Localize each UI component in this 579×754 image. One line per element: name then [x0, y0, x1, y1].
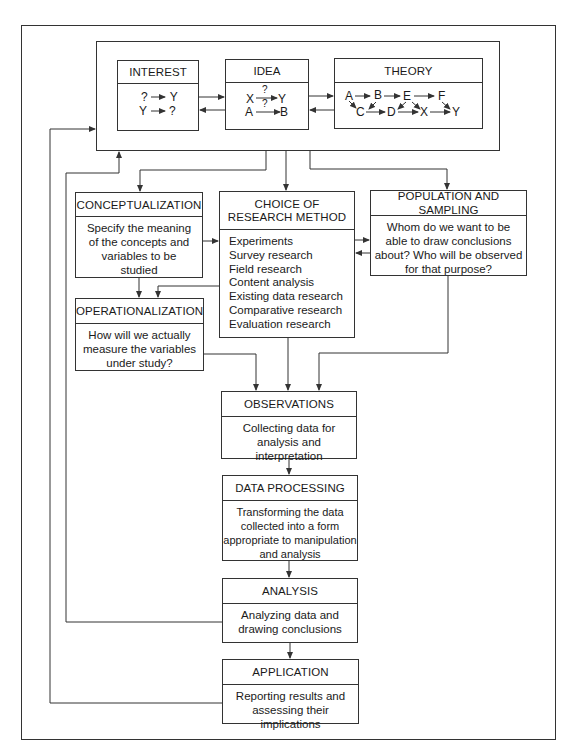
interest-row-2: Y?: [139, 105, 176, 117]
research-process-diagram: INTEREST ?Y Y? IDEA XY ? AB ? THEORY A B…: [0, 0, 579, 754]
idea-question-2: ?: [262, 98, 268, 110]
data-processing-title: DATA PROCESSING: [223, 476, 357, 501]
research-method-list: Experiments Survey research Field resear…: [220, 230, 354, 332]
conceptualization-box: CONCEPTUALIZATION Specify the meaning of…: [75, 192, 203, 278]
analysis-text: Analyzing data and drawing conclusions: [223, 604, 357, 636]
research-method-item: Experiments: [229, 235, 354, 249]
research-method-item: Existing data research: [229, 290, 354, 304]
choice-of-research-method-box: CHOICE OF RESEARCH METHOD Experiments Su…: [219, 191, 355, 338]
interest-title: INTEREST: [118, 61, 198, 84]
theory-node-e: E: [403, 90, 411, 102]
application-title: APPLICATION: [223, 660, 358, 685]
research-method-item: Comparative research: [229, 304, 354, 318]
idea-title: IDEA: [226, 60, 308, 83]
theory-node-a: A: [345, 90, 353, 102]
theory-node-b: B: [374, 89, 382, 101]
operationalization-text: How will we actually measure the variabl…: [76, 324, 203, 370]
theory-title: THEORY: [335, 59, 482, 83]
choice-of-research-method-title: CHOICE OF RESEARCH METHOD: [220, 192, 354, 230]
theory-node-f: F: [438, 90, 445, 102]
observations-text: Collecting data for analysis and interpr…: [222, 417, 356, 463]
analysis-box: ANALYSIS Analyzing data and drawing conc…: [222, 578, 358, 643]
research-method-item: Content analysis: [229, 276, 354, 290]
theory-node-x: X: [420, 106, 428, 118]
data-processing-text: Transforming the data collected into a f…: [223, 501, 357, 561]
population-and-sampling-box: POPULATION AND SAMPLING Whom do we want …: [370, 190, 527, 276]
conceptualization-title: CONCEPTUALIZATION: [76, 193, 202, 217]
operationalization-box: OPERATIONALIZATION How will we actually …: [75, 298, 204, 371]
application-box: APPLICATION Reporting results and assess…: [222, 659, 359, 724]
application-text: Reporting results and assessing their im…: [223, 685, 358, 731]
interest-row-1: ?Y: [141, 91, 178, 103]
theory-node-y: Y: [452, 106, 460, 118]
population-and-sampling-text: Whom do we want to be able to draw concl…: [371, 216, 526, 276]
research-method-item: Survey research: [229, 249, 354, 263]
operationalization-title: OPERATIONALIZATION: [76, 299, 203, 324]
population-and-sampling-title: POPULATION AND SAMPLING: [371, 191, 526, 216]
research-method-item: Evaluation research: [229, 318, 354, 332]
idea-question-1: ?: [262, 84, 268, 96]
observations-box: OBSERVATIONS Collecting data for analysi…: [221, 391, 357, 459]
conceptualization-text: Specify the meaning of the concepts and …: [76, 217, 202, 277]
data-processing-box: DATA PROCESSING Transforming the data co…: [222, 475, 358, 561]
observations-title: OBSERVATIONS: [222, 392, 356, 417]
analysis-title: ANALYSIS: [223, 579, 357, 604]
theory-node-c: C: [356, 106, 365, 118]
research-method-item: Field research: [229, 263, 354, 277]
theory-node-d: D: [387, 106, 396, 118]
